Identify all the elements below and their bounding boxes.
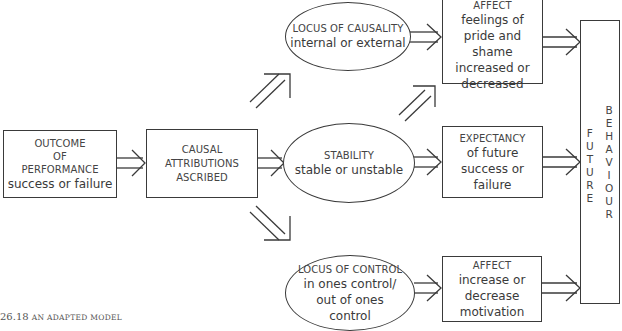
- outcome-detail: success or failure: [8, 176, 113, 192]
- locus-control-title: LOCUS OF CONTROL: [298, 263, 402, 276]
- arrow-stability-to-affect: [399, 86, 435, 121]
- causal-label-2: ATTRIBUTIONS: [165, 157, 239, 171]
- locus-control-detail-2: out of ones: [316, 292, 383, 308]
- arrow-expectancy-to-behaviour: [542, 149, 580, 175]
- affect-pride-title: AFFECT: [473, 0, 511, 12]
- arrow-causal-to-stability: [257, 150, 284, 176]
- affect-pride-shame-box: AFFECT feelings of pride and shame incre…: [442, 0, 543, 84]
- locus-causality-title: LOCUS OF CAUSALITY: [293, 22, 404, 35]
- arrow-locus-causality-to-affect: [410, 24, 441, 50]
- locus-causality-detail: internal or external: [290, 35, 405, 51]
- arrow-locus-control-to-affect: [414, 275, 441, 301]
- locus-control-detail-3: control: [329, 308, 371, 324]
- locus-of-control-ellipse: LOCUS OF CONTROL in ones control/ out of…: [285, 255, 415, 331]
- arrow-motivation-to-behaviour: [542, 275, 580, 301]
- arrow-affect-to-behaviour: [542, 29, 580, 55]
- affect-motivation-detail-1: increase or: [459, 272, 526, 288]
- arrow-causal-to-locus-causality: [250, 74, 290, 108]
- expectancy-box: EXPECTANCY of future success or failure: [442, 126, 543, 198]
- expectancy-detail-3: failure: [474, 177, 512, 193]
- arrow-causal-to-locus-control: [250, 206, 290, 240]
- locus-control-detail-1: in ones control/: [304, 276, 397, 292]
- outcome-label-2: OF: [53, 150, 67, 163]
- causal-label-1: CAUSAL: [182, 143, 223, 157]
- figure-caption: 26.18 AN ADAPTED MODEL: [0, 311, 122, 322]
- outcome-label-1: OUTCOME: [34, 137, 85, 150]
- affect-motivation-detail-2: decrease: [465, 288, 520, 304]
- affect-motivation-title: AFFECT: [473, 259, 511, 272]
- outcome-of-performance-box: OUTCOME OF PERFORMANCE success or failur…: [3, 130, 117, 198]
- behaviour-word: B E H A V I O U R: [605, 104, 613, 221]
- affect-pride-detail-4: decreased: [461, 76, 523, 92]
- future-word: F U T U R E: [586, 127, 594, 205]
- causal-label-3: ASCRIBED: [176, 171, 228, 185]
- affect-motivation-box: AFFECT increase or decrease motivation: [442, 256, 542, 322]
- expectancy-detail-1: of future: [467, 145, 519, 161]
- affect-pride-detail-2: pride and shame: [443, 28, 542, 60]
- affect-motivation-detail-3: motivation: [460, 304, 525, 320]
- figure-number: 26.18: [0, 311, 29, 322]
- figure-title: AN ADAPTED MODEL: [32, 313, 122, 322]
- stability-title: STABILITY: [324, 149, 374, 162]
- affect-pride-detail-1: feelings of: [461, 12, 524, 28]
- arrow-stability-to-expectancy: [414, 149, 441, 175]
- outcome-label-3: PERFORMANCE: [21, 163, 98, 176]
- locus-of-causality-ellipse: LOCUS OF CAUSALITY internal or external: [285, 2, 411, 71]
- expectancy-title: EXPECTANCY: [459, 132, 525, 145]
- expectancy-detail-2: success or: [461, 161, 524, 177]
- affect-pride-detail-3: increased or: [455, 60, 529, 76]
- causal-attributions-box: CAUSAL ATTRIBUTIONS ASCRIBED: [146, 129, 258, 198]
- stability-detail: stable or unstable: [295, 162, 403, 178]
- stability-ellipse: STABILITY stable or unstable: [283, 123, 415, 203]
- arrow-outcome-to-causal: [117, 150, 145, 176]
